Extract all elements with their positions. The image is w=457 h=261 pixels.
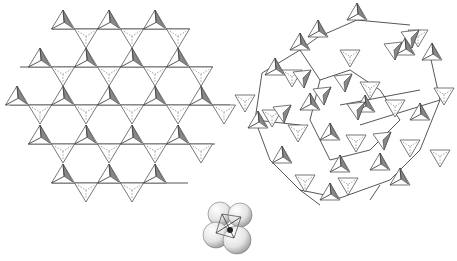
tetrahedron-down [400, 140, 420, 157]
tetrahedron-down [121, 105, 144, 124]
tetrahedron-down [288, 125, 308, 142]
tetrahedron-up [347, 3, 367, 20]
tetrahedron-up [144, 164, 167, 183]
tetrahedron-up [410, 103, 430, 120]
tetrahedron-up [29, 48, 52, 67]
tetrahedron-down [29, 105, 52, 124]
tetrahedron-up [98, 164, 121, 183]
tetrahedron-up [75, 125, 98, 144]
tetrahedron-tilted [373, 132, 391, 150]
tetrahedron-up [29, 125, 52, 144]
tetrahedron-down [430, 150, 450, 167]
tetrahedron-down [167, 29, 190, 48]
tetrahedron-up [98, 10, 121, 29]
network-bond [357, 20, 410, 25]
tetrahedron-down [144, 67, 167, 86]
tetrahedron-up [300, 93, 320, 110]
central-atom [227, 227, 233, 233]
tetrahedron-down [121, 183, 144, 202]
tetrahedron-down [144, 144, 167, 163]
tetrahedron-up [308, 20, 328, 37]
tetrahedron-tilted [334, 74, 352, 92]
tetrahedron-up [272, 146, 292, 163]
tetrahedron-down [52, 144, 75, 163]
tetrahedron-up [6, 86, 29, 105]
tetrahedron-up [144, 10, 167, 29]
tetrahedron-up [52, 164, 75, 183]
figure-canvas [0, 0, 457, 261]
tetrahedron-up [167, 125, 190, 144]
tetrahedron-up [144, 86, 167, 105]
tetrahedron-down [360, 82, 380, 99]
tetrahedron-up [52, 86, 75, 105]
tetrahedron-down [98, 144, 121, 163]
tetrahedron-up [190, 86, 213, 105]
network-bond [340, 90, 420, 105]
tetrahedron-up [167, 48, 190, 67]
ordered-network-panel [6, 10, 236, 202]
tetrahedron-down [167, 105, 190, 124]
disordered-network-panel [235, 3, 454, 205]
tetrahedron-down [121, 29, 144, 48]
tetrahedron-up [52, 10, 75, 29]
tetrahedron-down [385, 100, 405, 117]
tetrahedron-up [370, 153, 390, 170]
tetrahedron-up [320, 183, 340, 200]
tetrahedron-down [190, 144, 213, 163]
tetrahedron-down [75, 105, 98, 124]
tetrahedron-up [290, 33, 310, 50]
network-bond [390, 150, 420, 180]
tetrahedron-down [295, 175, 315, 192]
tetrahedron-up [320, 123, 340, 140]
tetrahedron-down [190, 67, 213, 86]
tetrahedron-up [121, 48, 144, 67]
tetrahedron-up [98, 86, 121, 105]
tetrahedron-down [213, 105, 236, 124]
tetrahedron-down [75, 29, 98, 48]
tetrahedron-down [434, 88, 454, 105]
tetrahedron-down [75, 183, 98, 202]
tetrahedron-up [330, 155, 350, 172]
tetrahedron-down [52, 67, 75, 86]
tetrahedron-down [235, 95, 255, 112]
tetrahedron-model-panel [203, 202, 252, 254]
tetrahedron-up [121, 125, 144, 144]
structure-figure [0, 0, 457, 261]
tetrahedron-up [75, 48, 98, 67]
tetrahedron-down [98, 67, 121, 86]
network-bond [370, 185, 380, 200]
tetrahedron-down [346, 135, 366, 152]
tetrahedron-down [340, 50, 360, 67]
tetrahedron-up [422, 43, 442, 60]
network-bond [330, 150, 370, 160]
